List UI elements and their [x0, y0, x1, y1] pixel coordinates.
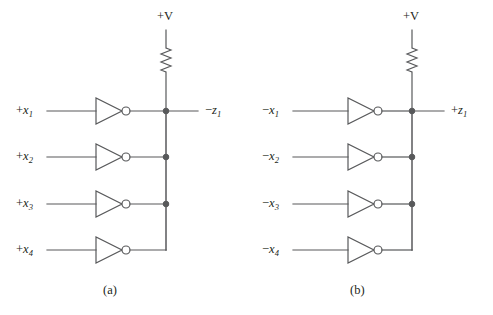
inverter-triangle-a-3 — [96, 191, 122, 217]
input-label-b-4: −x4 — [262, 243, 279, 257]
input-label-a-3: +x3 — [16, 197, 33, 211]
inversion-bubble-b-2 — [374, 153, 382, 161]
schematic-canvas — [0, 0, 493, 315]
inversion-bubble-a-3 — [122, 200, 130, 208]
inversion-bubble-a-1 — [122, 107, 130, 115]
caption-b: (b) — [350, 283, 365, 298]
junction-dot-b-1 — [409, 108, 415, 114]
junction-dot-b-3 — [409, 201, 415, 207]
caption-a: (a) — [103, 283, 117, 298]
input-label-a-4: +x4 — [16, 243, 33, 257]
input-label-b-2: −x2 — [262, 150, 279, 164]
supply-label-a: +V — [157, 9, 173, 24]
inverter-triangle-b-2 — [348, 144, 374, 170]
junction-dot-a-3 — [163, 201, 169, 207]
resistor-zigzag-b — [407, 48, 417, 72]
junction-dot-a-2 — [163, 154, 169, 160]
input-label-a-1: +x1 — [16, 104, 33, 118]
inversion-bubble-b-1 — [374, 107, 382, 115]
inversion-bubble-b-4 — [374, 246, 382, 254]
inversion-bubble-a-4 — [122, 246, 130, 254]
junction-dot-a-1 — [163, 108, 169, 114]
inverter-triangle-a-2 — [96, 144, 122, 170]
input-label-b-1: −x1 — [262, 104, 279, 118]
inverter-triangle-a-1 — [96, 98, 122, 124]
input-label-a-2: +x2 — [16, 150, 33, 164]
output-label-a: −z1 — [205, 104, 221, 118]
inversion-bubble-a-2 — [122, 153, 130, 161]
inversion-bubble-b-3 — [374, 200, 382, 208]
figure-wired-logic-inverters: +V +x1 +x2 +x3 +x4 −z1 (a) +V −x1 −x2 −x… — [0, 0, 493, 315]
resistor-zigzag-a — [161, 48, 171, 72]
supply-label-b: +V — [403, 9, 419, 24]
junction-dot-b-2 — [409, 154, 415, 160]
output-label-b: +z1 — [451, 104, 467, 118]
inverter-triangle-b-1 — [348, 98, 374, 124]
inverter-triangle-b-3 — [348, 191, 374, 217]
input-label-b-3: −x3 — [262, 197, 279, 211]
inverter-triangle-b-4 — [348, 237, 374, 263]
inverter-triangle-a-4 — [96, 237, 122, 263]
